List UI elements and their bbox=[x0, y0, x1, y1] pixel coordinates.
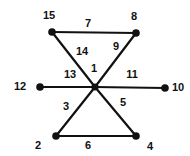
node-2 bbox=[52, 132, 60, 140]
node-label: 10 bbox=[172, 81, 184, 93]
edge-label: 5 bbox=[120, 96, 126, 108]
edge-label: 13 bbox=[64, 68, 76, 80]
edge-label: 9 bbox=[113, 40, 119, 52]
edges-group bbox=[40, 32, 165, 136]
node-label: 4 bbox=[147, 140, 154, 152]
edge-label: 3 bbox=[63, 100, 69, 112]
node-label: 2 bbox=[35, 139, 41, 151]
node-label: 15 bbox=[43, 9, 55, 21]
edge-label: 14 bbox=[76, 45, 89, 57]
edge-3 bbox=[56, 87, 95, 136]
edge-7 bbox=[52, 32, 136, 33]
edge-label: 11 bbox=[126, 68, 138, 80]
nodes-group bbox=[36, 28, 169, 140]
node-15 bbox=[48, 28, 56, 36]
graph-diagram: 714913113561158121024 bbox=[0, 0, 190, 156]
node-4 bbox=[132, 132, 140, 140]
node-label: 12 bbox=[14, 80, 26, 92]
edge-label: 7 bbox=[85, 17, 91, 29]
edge-label: 6 bbox=[85, 139, 91, 151]
node-8 bbox=[132, 29, 140, 37]
edge-5 bbox=[95, 87, 136, 136]
node-10 bbox=[161, 84, 169, 92]
node-12 bbox=[36, 83, 44, 91]
node-1 bbox=[91, 83, 98, 90]
node-label: 1 bbox=[91, 62, 97, 74]
edge-11 bbox=[95, 87, 165, 88]
node-label: 8 bbox=[131, 10, 137, 22]
